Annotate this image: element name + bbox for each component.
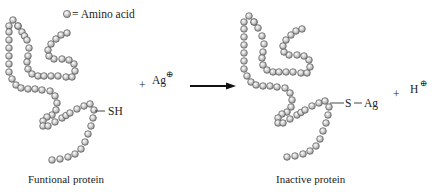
amino-acid-bead	[302, 107, 309, 114]
amino-acid-bead	[255, 25, 262, 32]
inactive-protein-chain	[241, 13, 333, 161]
amino-acid-bead	[57, 156, 64, 163]
functional-protein-label: Funtional protein	[28, 173, 105, 185]
amino-acid-bead	[6, 29, 13, 36]
amino-acid-bead	[251, 19, 258, 26]
amino-acid-bead	[326, 104, 333, 111]
amino-acid-bead	[246, 13, 253, 20]
amino-acid-bead	[289, 97, 296, 104]
amino-acid-bead	[49, 157, 56, 164]
amino-acid-bead	[63, 74, 70, 81]
amino-acid-bead	[323, 120, 330, 127]
amino-acid-bead	[241, 19, 248, 26]
amino-acid-bead	[39, 87, 46, 94]
amino-acid-bead	[10, 17, 17, 24]
amino-acid-bead	[260, 83, 267, 90]
amino-acid-bead	[6, 61, 13, 68]
amino-acid-bead	[85, 131, 92, 138]
amino-acid-bead	[45, 123, 52, 130]
amino-acid-bead	[320, 128, 327, 135]
amino-acid-bead	[309, 103, 316, 110]
thiol-label: SH	[108, 105, 123, 117]
amino-acid-bead	[294, 52, 301, 59]
amino-acid-bead	[287, 90, 294, 97]
amino-acid-bead	[290, 69, 297, 76]
amino-acid-bead	[48, 73, 55, 80]
amino-acid-bead	[317, 136, 324, 143]
amino-acid-bead	[259, 33, 266, 40]
inactive-protein-label: Inactive protein	[276, 173, 346, 185]
amino-acid-bead	[58, 32, 65, 39]
amino-acid-bead	[270, 69, 277, 76]
silver-label: Ag	[364, 97, 378, 110]
amino-acid-bead	[18, 85, 25, 92]
amino-acid-bead	[280, 43, 287, 50]
hydrogen-ion-charge: ⊕	[420, 78, 428, 88]
silver-ion-label: Ag	[152, 74, 166, 87]
amino-acid-bead	[87, 101, 94, 108]
amino-acid-bead	[241, 26, 248, 33]
amino-acid-bead	[52, 119, 59, 126]
amino-acid-bead	[82, 139, 89, 146]
amino-acid-bead-icon	[63, 10, 70, 17]
amino-acid-bead	[64, 30, 71, 37]
amino-acid-bead	[88, 123, 95, 130]
amino-acid-bead	[322, 98, 329, 105]
plus-sign-1: +	[139, 79, 146, 91]
amino-acid-bead	[24, 59, 31, 66]
amino-acid-bead	[283, 37, 290, 44]
sulfur-label: S	[345, 97, 351, 109]
amino-acid-bead	[54, 100, 61, 107]
amino-acid-bead	[6, 53, 13, 60]
amino-acid-bead	[259, 55, 266, 62]
amino-acid-bead	[241, 50, 248, 57]
amino-acid-bead	[253, 82, 260, 89]
amino-acid-bead	[59, 56, 66, 63]
amino-acid-bead	[287, 116, 294, 123]
legend: = Amino acid	[63, 8, 135, 20]
amino-acid-bead	[74, 106, 81, 113]
amino-acid-bead	[283, 69, 290, 76]
hydrogen-ion-label: H	[410, 83, 418, 95]
amino-acid-bead	[301, 53, 308, 60]
amino-acid-bead	[6, 45, 13, 52]
amino-acid-bead	[292, 153, 299, 160]
amino-acid-bead	[46, 53, 53, 60]
amino-acid-bead	[25, 86, 32, 93]
amino-acid-bead	[91, 107, 98, 114]
amino-acid-bead	[304, 70, 311, 77]
amino-acid-bead	[6, 23, 13, 30]
amino-acid-bead	[284, 154, 291, 161]
amino-acid-bead	[261, 41, 268, 48]
amino-acid-bead	[241, 42, 248, 49]
amino-acid-bead	[281, 49, 288, 56]
amino-acid-bead	[65, 154, 72, 161]
amino-acid-bead	[276, 69, 283, 76]
amino-acid-bead	[241, 58, 248, 65]
amino-acid-bead	[274, 84, 281, 91]
amino-acid-bead	[41, 73, 48, 80]
amino-acid-bead	[241, 34, 248, 41]
amino-acid-bead	[241, 66, 248, 73]
amino-acid-bead	[72, 68, 79, 75]
amino-acid-bead	[15, 23, 22, 30]
amino-acid-bead	[69, 74, 76, 81]
amino-acid-bead	[45, 47, 52, 54]
amino-acid-bead	[47, 88, 54, 95]
amino-acid-bead	[66, 57, 73, 64]
amino-acid-bead	[307, 64, 314, 71]
amino-acid-bead	[282, 85, 289, 92]
amino-acid-bead	[280, 120, 287, 127]
reaction-diagram: = Amino acid SH Funtional protein + Ag ⊕…	[0, 0, 441, 192]
amino-acid-bead	[35, 73, 42, 80]
amino-acid-bead	[26, 45, 33, 52]
amino-acid-bead	[81, 103, 88, 110]
reaction-arrow-icon	[190, 83, 236, 90]
amino-acid-bead	[52, 93, 59, 100]
thiol-group: SH	[95, 105, 123, 117]
amino-acid-bead	[260, 49, 267, 56]
functional-protein-chain	[6, 17, 98, 164]
amino-acid-bead	[90, 115, 97, 122]
amino-acid-bead	[300, 151, 307, 158]
amino-acid-bead	[293, 28, 300, 35]
